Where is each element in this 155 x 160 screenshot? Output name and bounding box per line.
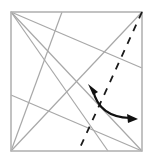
origami-diagram-figure (0, 0, 155, 160)
origami-diagram-canvas (0, 0, 155, 160)
